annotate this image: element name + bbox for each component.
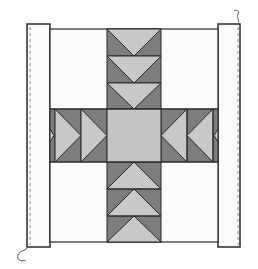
wavy-edge-icon [18,246,29,261]
left-border-strip [18,24,50,261]
center-square [107,109,161,162]
right-border-strip [218,10,240,247]
top-arm [107,29,161,109]
quilt-block-diagram [0,0,258,269]
right-arm [161,109,218,162]
bottom-arm [107,162,161,242]
wavy-edge-icon [234,10,239,24]
left-arm [50,109,107,162]
